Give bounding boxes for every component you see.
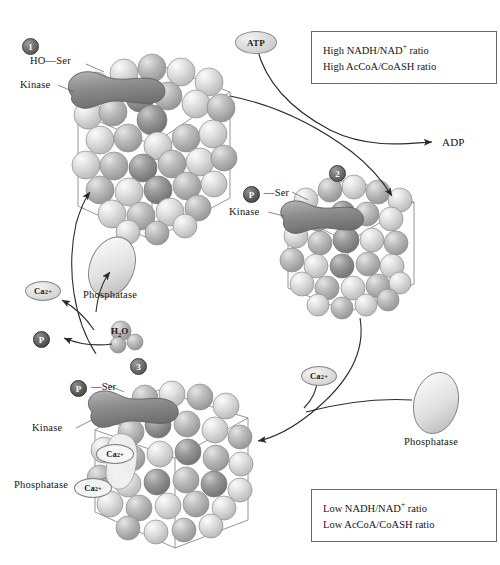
- ratio-bottom-line-1: Low NADH/NAD+ ratio: [323, 497, 486, 517]
- complex1-serine-label: HO—Ser: [30, 55, 71, 66]
- arrow-1-to-2: [230, 96, 392, 196]
- arrow-phosphatase-join: [306, 400, 412, 413]
- diagram-artwork: [0, 0, 500, 565]
- phosphate-badge: P: [33, 331, 50, 348]
- complex3-calcium-badge-1: Ca2+: [96, 444, 134, 464]
- complex3-calcium-badge-2: Ca2+: [74, 478, 112, 498]
- complex3-kinase-label: Kinase: [32, 422, 62, 433]
- water-label: H2O: [111, 326, 128, 338]
- arrow-release-calcium: [62, 300, 94, 330]
- figure-canvas: 1 2 3 HO—Ser Kinase P —Ser Kinase P —Ser…: [0, 0, 500, 565]
- step-marker-3: 3: [130, 358, 147, 375]
- ratio-top-line-1: High NADH/NAD+ ratio: [323, 39, 486, 59]
- phosphatase-right-label: Phosphatase: [404, 436, 458, 447]
- complex2-kinase-label: Kinase: [229, 206, 259, 217]
- ratio-bottom-line-2: Low AcCoA/CoASH ratio: [323, 517, 486, 533]
- complex3-serine-label: —Ser: [91, 381, 116, 392]
- phosphatase-blob-right: [407, 368, 465, 439]
- step-marker-1: 1: [22, 38, 39, 55]
- complex3-phospho-badge: P: [70, 380, 87, 397]
- complex2-phospho-badge: P: [243, 186, 260, 203]
- ratio-box-top: High NADH/NAD+ ratio High AcCoA/CoASH ra…: [311, 31, 497, 84]
- complex1-kinase-label: Kinase: [20, 79, 50, 90]
- calcium-left-label: Ca2+: [25, 281, 61, 301]
- complex2-serine-label: —Ser: [264, 187, 289, 198]
- ratio-box-bottom: Low NADH/NAD+ ratio Low AcCoA/CoASH rati…: [311, 489, 497, 542]
- adp-label: ADP: [442, 136, 465, 148]
- ratio-top-line-2: High AcCoA/CoASH ratio: [323, 59, 486, 75]
- step-marker-2: 2: [329, 165, 346, 182]
- phosphatase-mid-label: Phosphatase: [83, 289, 137, 300]
- calcium-right-label: Ca2+: [301, 366, 337, 386]
- atp-label: ATP: [235, 31, 277, 54]
- complex3-phosphatase-label: Phosphatase: [14, 479, 68, 490]
